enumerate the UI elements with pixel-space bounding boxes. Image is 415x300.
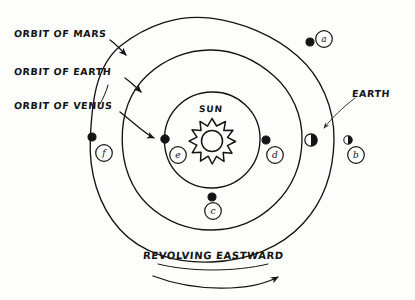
callout-label-earth: EARTH <box>352 88 391 99</box>
revolving-arc-arrow <box>153 276 278 288</box>
arrow-orbit-mars <box>110 40 126 55</box>
callout-label-orbit-venus: ORBIT OF VENUS <box>14 100 114 111</box>
marker-label-d: d <box>268 148 282 162</box>
marker-label-b: b <box>349 148 363 162</box>
planet-markers <box>88 31 364 220</box>
revolving-eastward-label: REVOLVING EASTWARD <box>143 250 285 261</box>
orbit-circles <box>90 17 334 262</box>
marker-dot-a[interactable] <box>306 38 314 46</box>
marker-dot-b[interactable] <box>344 136 352 144</box>
callout-arrows <box>100 40 154 138</box>
marker-label-a: a <box>317 32 331 46</box>
orbit-path-mars <box>90 17 334 262</box>
marker-label-f: f <box>97 146 111 160</box>
callout-label-orbit-earth: ORBIT OF EARTH <box>14 66 112 77</box>
revolving-arc-upper <box>158 264 268 270</box>
sun-label: SUN <box>199 104 224 114</box>
marker-dot-d[interactable] <box>262 136 270 144</box>
marker-dot-f[interactable] <box>88 133 96 141</box>
callout-label-orbit-mars: ORBIT OF MARS <box>14 28 108 39</box>
sun-core-icon <box>202 131 223 152</box>
marker-label-c: c <box>206 204 220 218</box>
sun-rays-icon <box>189 119 236 165</box>
marker-dot-c[interactable] <box>208 193 216 201</box>
sun-symbol <box>189 119 236 165</box>
revolving-arrow <box>153 264 278 288</box>
marker-dot-e[interactable] <box>161 135 170 144</box>
marker-dot-earth[interactable] <box>305 134 317 146</box>
orbit-diagram: ORBIT OF MARS ORBIT OF EARTH ORBIT OF VE… <box>0 0 415 300</box>
marker-label-e: e <box>171 148 185 162</box>
arrow-orbit-venus <box>120 112 154 138</box>
